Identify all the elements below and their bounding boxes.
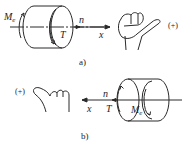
moment-label-a: Me bbox=[4, 12, 15, 25]
speed-label-b: n bbox=[103, 89, 108, 99]
torque-label-b: T bbox=[106, 104, 112, 114]
axis-label-a: x bbox=[99, 30, 103, 40]
sign-label-a: (+) bbox=[168, 22, 178, 30]
diagram-canvas bbox=[0, 0, 187, 149]
speed-label-a: n bbox=[79, 15, 84, 25]
right-hand-icon-b bbox=[33, 88, 69, 112]
caption-b: b) bbox=[81, 132, 89, 141]
moment-label-b: Me bbox=[131, 105, 142, 118]
moment-arrow-b bbox=[144, 89, 150, 115]
torque-label-a: T bbox=[60, 30, 66, 40]
right-hand-icon-a bbox=[118, 13, 160, 50]
sign-label-b: (+) bbox=[15, 88, 25, 96]
axis-label-b: x bbox=[87, 104, 91, 114]
caption-a: a) bbox=[79, 58, 86, 67]
